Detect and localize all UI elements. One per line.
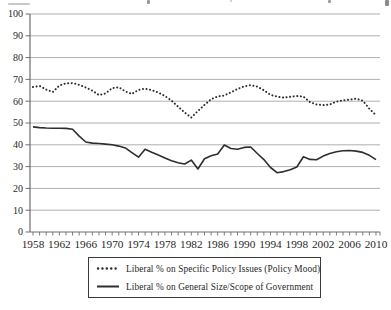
y-tick-label: 50 bbox=[13, 117, 23, 128]
y-tick-label: 30 bbox=[13, 161, 23, 172]
y-tick-label: 90 bbox=[13, 30, 23, 41]
x-tick-label: 1994 bbox=[259, 238, 282, 250]
legend-item-policy-mood: Liberal % on Specific Policy Issues (Pol… bbox=[96, 261, 320, 276]
y-tick-label: 10 bbox=[13, 205, 23, 216]
y-tick-label: 20 bbox=[13, 183, 23, 194]
x-tick-label: 2006 bbox=[338, 238, 361, 250]
x-tick-label: 1986 bbox=[206, 238, 229, 250]
legend-label-policy-mood: Liberal % on Specific Policy Issues (Pol… bbox=[126, 264, 320, 274]
x-tick-label: 1970 bbox=[101, 238, 124, 250]
series-line-solid bbox=[33, 127, 376, 173]
y-tick-label: 60 bbox=[13, 96, 23, 107]
y-tick-label: 100 bbox=[8, 8, 23, 19]
x-tick-label: 1990 bbox=[233, 238, 256, 250]
chart-legend: Liberal % on Specific Policy Issues (Pol… bbox=[88, 257, 321, 298]
x-tick-label: 1982 bbox=[180, 238, 203, 250]
plot-area: 0102030405060708090100195819621966197019… bbox=[0, 0, 391, 256]
solid-line-sample-icon bbox=[96, 283, 120, 290]
legend-label-scope-of-government: Liberal % on General Size/Scope of Gover… bbox=[126, 282, 313, 292]
y-tick-label: 80 bbox=[13, 52, 23, 63]
y-tick-label: 70 bbox=[13, 74, 23, 85]
dotted-line-sample-icon bbox=[96, 265, 120, 272]
x-tick-label: 1978 bbox=[154, 238, 177, 250]
legend-item-scope-of-government: Liberal % on General Size/Scope of Gover… bbox=[96, 279, 320, 294]
figure-chart: 0102030405060708090100195819621966197019… bbox=[0, 0, 391, 310]
y-tick-label: 40 bbox=[13, 139, 23, 150]
x-tick-label: 2002 bbox=[312, 238, 335, 250]
x-tick-label: 1958 bbox=[22, 238, 45, 250]
series-line-dotted bbox=[33, 83, 376, 117]
x-tick-label: 1998 bbox=[286, 238, 309, 250]
x-tick-label: 1962 bbox=[48, 238, 71, 250]
y-tick-label: 0 bbox=[18, 226, 23, 237]
x-tick-label: 1974 bbox=[127, 238, 150, 250]
x-tick-label: 1966 bbox=[74, 238, 97, 250]
x-tick-label: 2010 bbox=[365, 238, 388, 250]
